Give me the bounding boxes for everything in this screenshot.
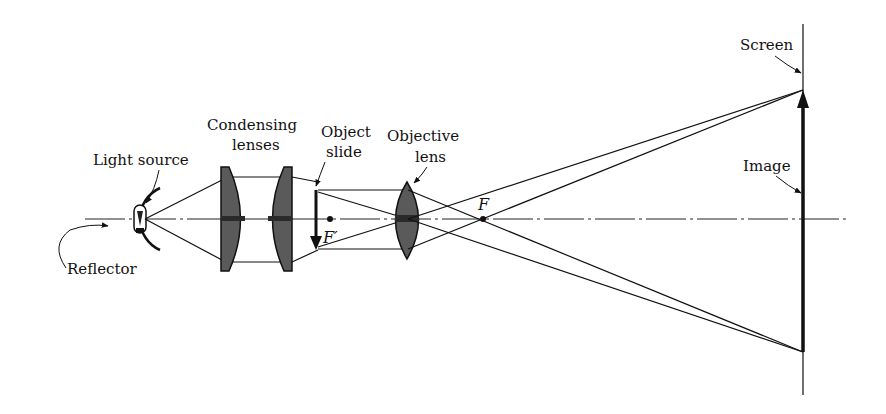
condensing-label-1: Condensing — [207, 116, 297, 134]
ray — [145, 219, 222, 260]
objective-label-2: lens — [415, 148, 446, 166]
condensing-lens-2 — [268, 167, 292, 271]
f-label: F — [477, 195, 490, 214]
condensing-label-2: lenses — [232, 136, 280, 154]
focal-point-f-prime — [327, 216, 333, 222]
screen-label: Screen — [740, 36, 794, 54]
ray — [292, 177, 318, 182]
focal-point-f — [480, 216, 486, 222]
ray — [408, 190, 803, 352]
object-label-1: Object — [321, 123, 371, 141]
objective-label-1: Objective — [387, 127, 459, 145]
screen-pointer — [775, 56, 801, 73]
ray — [408, 219, 803, 352]
ray — [145, 180, 222, 219]
condensing-lens-1 — [221, 167, 245, 271]
object-slide-pointer — [316, 162, 325, 186]
light-source-label: Light source — [93, 151, 189, 169]
objective-pointer — [414, 167, 427, 183]
image-arrowhead-icon — [797, 90, 809, 108]
ray — [408, 90, 803, 219]
image-pointer — [776, 176, 801, 193]
ray — [292, 250, 318, 262]
projector-diagram: F′ F Light source Reflector Condensing l… — [0, 0, 886, 414]
light-source-icon — [134, 205, 146, 233]
ray — [318, 192, 408, 219]
object-arrowhead-icon — [310, 236, 322, 250]
reflector-label: Reflector — [67, 260, 138, 278]
object-label-2: slide — [326, 143, 362, 161]
image-label: Image — [743, 157, 791, 175]
f-prime-label: F′ — [322, 228, 338, 247]
